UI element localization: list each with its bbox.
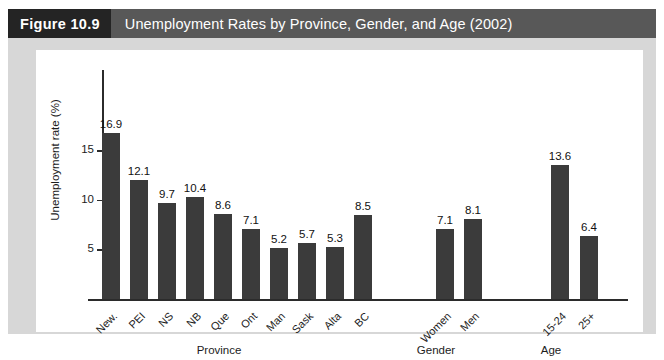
bar <box>580 236 598 299</box>
bar-value-label: 8.1 <box>453 204 493 216</box>
bar-value-label: 8.6 <box>203 199 243 211</box>
bar <box>298 243 316 299</box>
bar-value-label: 8.5 <box>343 200 383 212</box>
bar <box>186 197 204 299</box>
group-label: Province <box>159 344 279 356</box>
y-tick-label: 5 <box>68 242 94 254</box>
bar-value-label: 10.4 <box>175 182 215 194</box>
y-tick-label: 10 <box>68 193 94 205</box>
bar <box>551 165 569 299</box>
bar-value-label: 7.1 <box>231 214 271 226</box>
y-axis-title: Unemployment rate (%) <box>49 65 61 255</box>
bar-chart: 51015 Unemployment rate (%) 16.912.19.71… <box>36 50 643 332</box>
bar-value-label: 12.1 <box>119 165 159 177</box>
bar <box>102 133 120 299</box>
chart-panel: 51015 Unemployment rate (%) 16.912.19.71… <box>36 50 643 332</box>
bar <box>214 214 232 299</box>
bar <box>270 248 288 299</box>
bar <box>326 247 344 299</box>
bar-value-label: 6.4 <box>569 221 609 233</box>
bar-value-label: 5.3 <box>315 232 355 244</box>
figure-frame: 51015 Unemployment rate (%) 16.912.19.71… <box>8 38 656 334</box>
bar-value-label: 16.9 <box>91 118 131 130</box>
bar-value-label: 13.6 <box>540 150 580 162</box>
figure-title-bar: Figure 10.9 Unemployment Rates by Provin… <box>8 9 656 38</box>
bar <box>130 180 148 299</box>
figure-title: Unemployment Rates by Province, Gender, … <box>111 9 512 38</box>
figure-number: Figure 10.9 <box>8 9 111 38</box>
bar <box>242 229 260 299</box>
group-label: Age <box>491 344 611 356</box>
bar <box>354 215 372 299</box>
bar <box>436 229 454 299</box>
bar <box>464 219 482 299</box>
bar <box>158 203 176 299</box>
group-label: Gender <box>376 344 496 356</box>
y-tick-label: 15 <box>68 143 94 155</box>
x-axis-line <box>88 299 628 301</box>
